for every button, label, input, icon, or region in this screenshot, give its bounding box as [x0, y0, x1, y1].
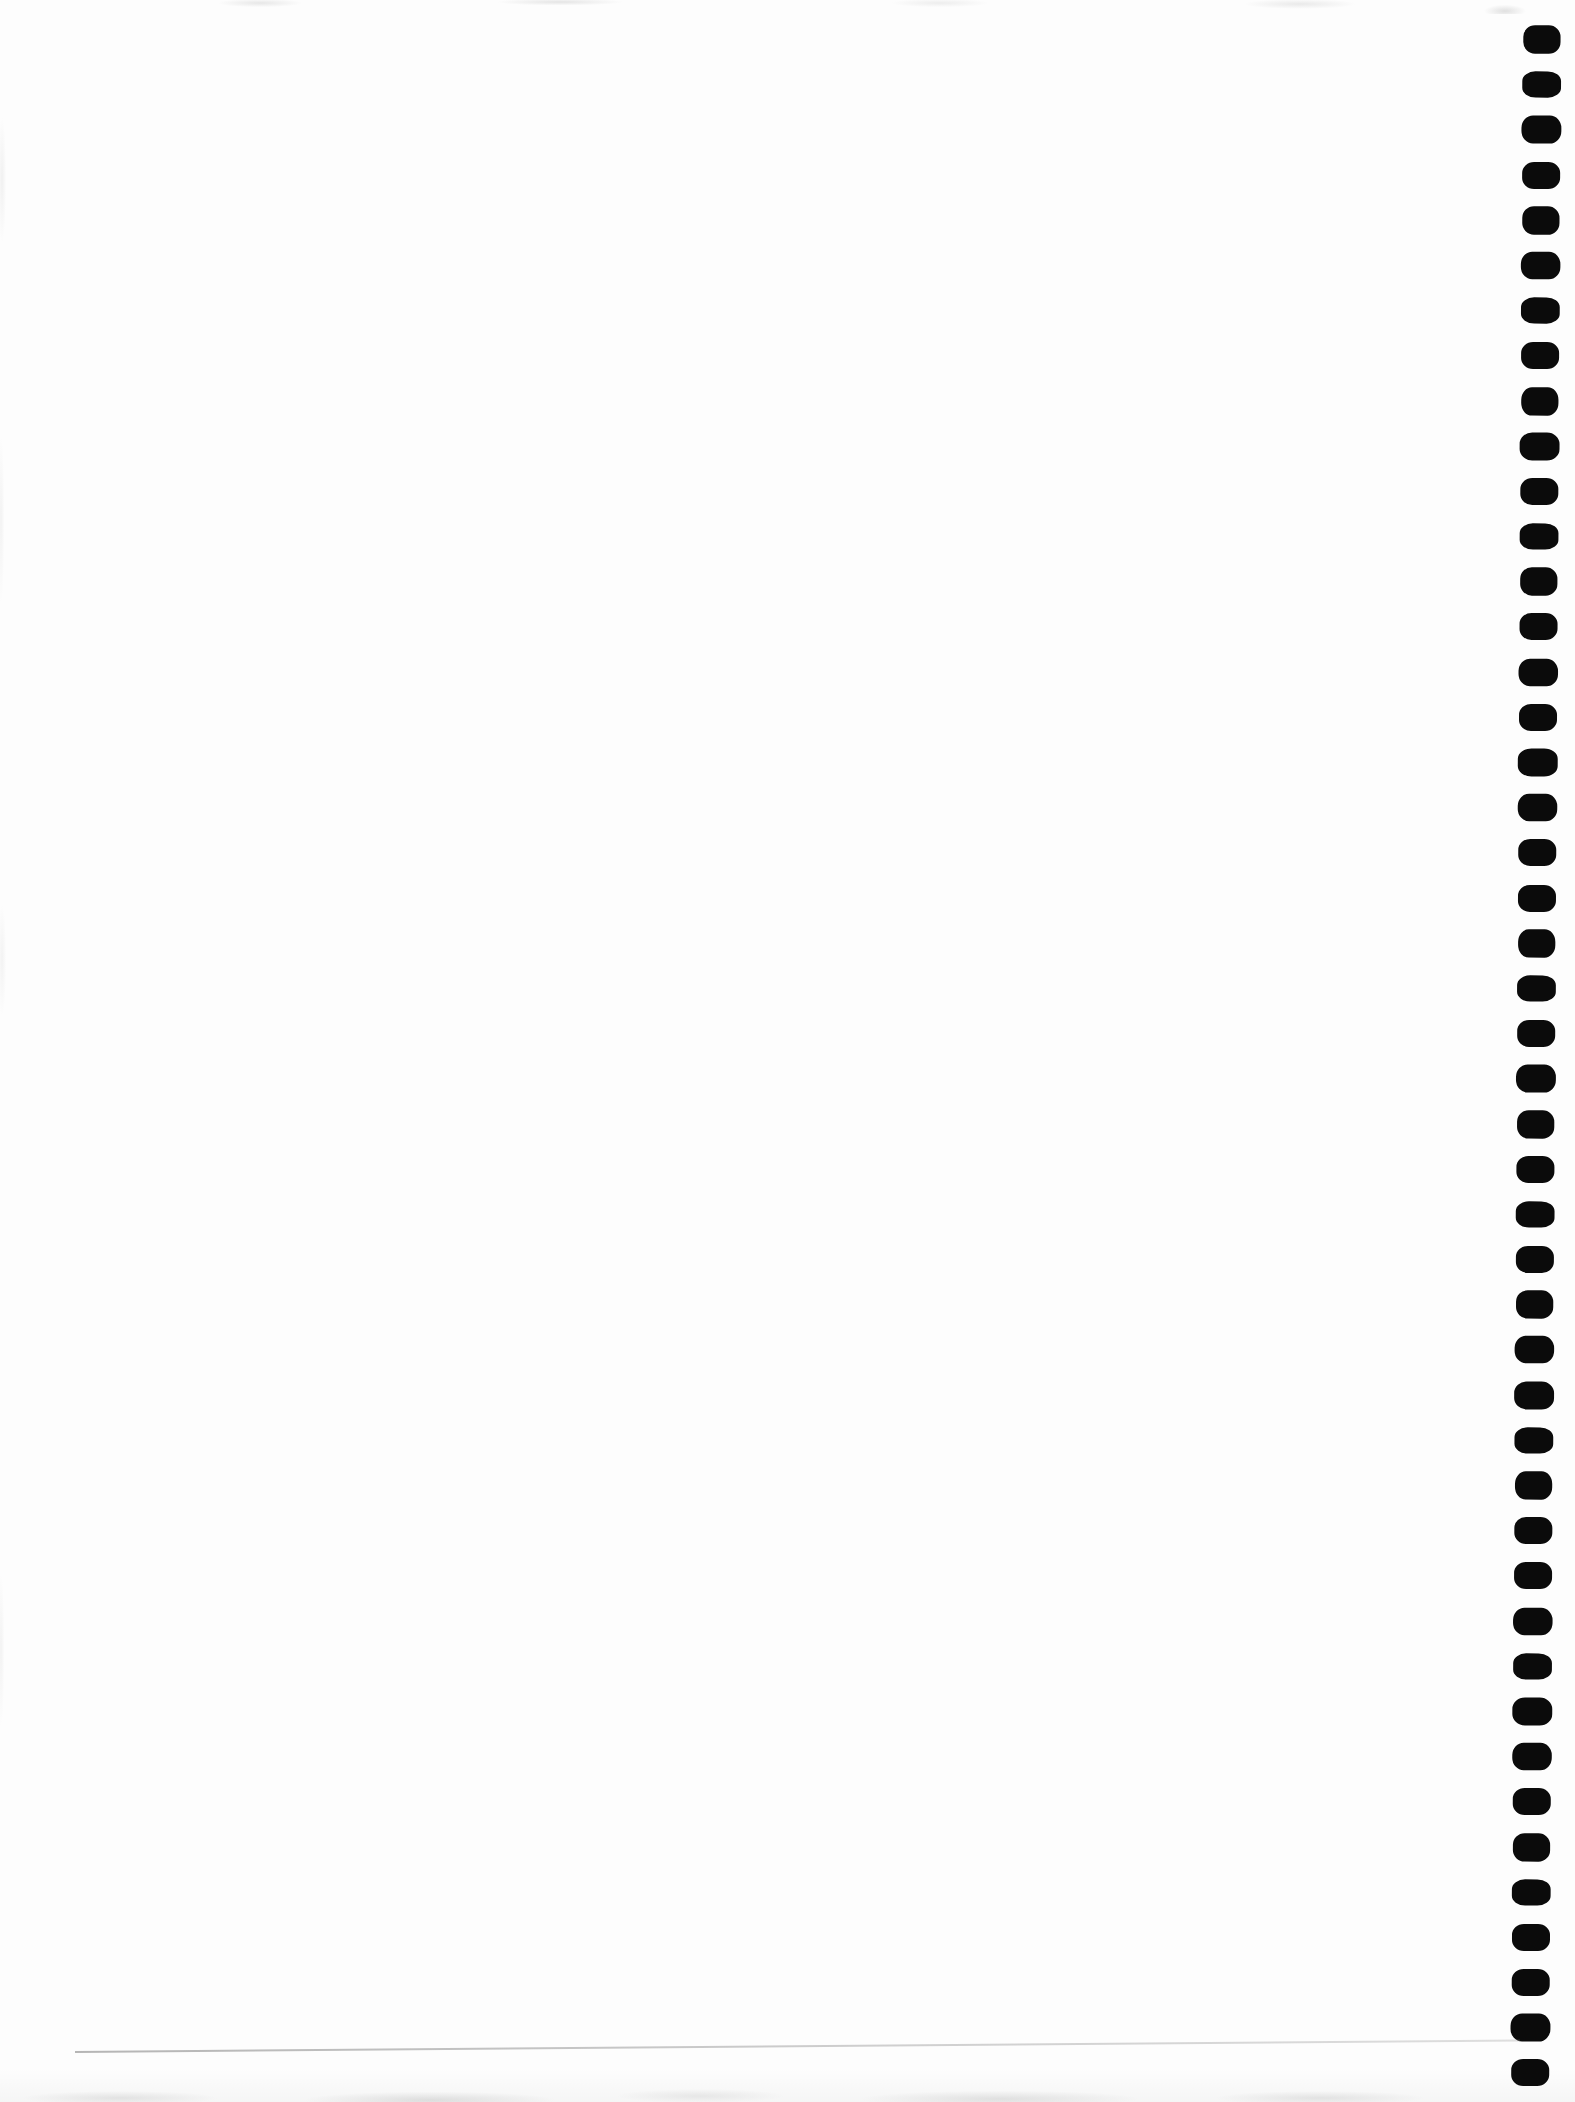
- binding-hole-icon: [1511, 2059, 1549, 2086]
- binding-hole-icon: [1517, 1110, 1554, 1139]
- binding-hole-icon: [1515, 1336, 1555, 1364]
- binding-hole-icon: [1514, 1562, 1552, 1589]
- binding-hole-icon: [1514, 1381, 1554, 1409]
- scan-noise-bottom: [0, 2068, 1575, 2102]
- binding-hole-icon: [1522, 161, 1560, 188]
- binding-hole-icon: [1522, 206, 1559, 235]
- binding-hole-icon: [1512, 1879, 1551, 1905]
- binding-hole-icon: [1512, 1697, 1552, 1725]
- binding-holes-column: [1511, 26, 1561, 2087]
- scan-noise-top: [0, 0, 1575, 14]
- binding-hole-icon: [1510, 2014, 1550, 2042]
- binding-hole-icon: [1518, 658, 1558, 686]
- binding-hole-icon: [1512, 1924, 1550, 1951]
- binding-hole-icon: [1512, 1743, 1552, 1771]
- binding-hole-icon: [1520, 478, 1558, 505]
- binding-hole-icon: [1521, 297, 1560, 323]
- binding-hole-icon: [1516, 1290, 1553, 1319]
- binding-hole-icon: [1522, 71, 1561, 97]
- binding-hole-icon: [1516, 1201, 1555, 1227]
- binding-hole-icon: [1514, 1517, 1552, 1544]
- binding-hole-icon: [1521, 342, 1559, 369]
- scanned-page: [0, 0, 1575, 2102]
- binding-hole-icon: [1518, 794, 1558, 822]
- binding-hole-icon: [1516, 1246, 1554, 1273]
- page-crease-line: [75, 2039, 1520, 2052]
- binding-hole-icon: [1513, 1833, 1550, 1862]
- binding-hole-icon: [1520, 432, 1560, 460]
- binding-hole-icon: [1514, 1427, 1553, 1453]
- binding-hole-icon: [1519, 613, 1557, 640]
- binding-hole-icon: [1520, 567, 1557, 596]
- binding-hole-icon: [1518, 839, 1556, 866]
- binding-hole-icon: [1521, 252, 1561, 280]
- binding-hole-icon: [1516, 1156, 1554, 1183]
- binding-hole-icon: [1518, 929, 1555, 958]
- binding-hole-icon: [1520, 523, 1559, 549]
- binding-hole-icon: [1513, 1788, 1551, 1815]
- binding-hole-icon: [1519, 704, 1557, 731]
- binding-hole-icon: [1513, 1607, 1553, 1635]
- binding-hole-icon: [1523, 25, 1560, 54]
- binding-hole-icon: [1517, 1020, 1555, 1047]
- binding-hole-icon: [1513, 1653, 1552, 1679]
- binding-hole-icon: [1517, 975, 1556, 1001]
- scan-noise-left: [0, 0, 14, 2102]
- binding-hole-icon: [1512, 1969, 1550, 1996]
- binding-hole-icon: [1521, 387, 1558, 416]
- binding-hole-icon: [1518, 748, 1558, 776]
- binding-hole-icon: [1521, 116, 1561, 144]
- binding-hole-icon: [1516, 1065, 1556, 1093]
- binding-hole-icon: [1515, 1471, 1552, 1500]
- binding-hole-icon: [1518, 884, 1556, 911]
